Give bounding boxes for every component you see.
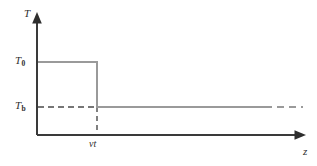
x-axis-label: z xyxy=(303,146,307,157)
temperature-step-figure: T z T0 Tb vt xyxy=(0,0,317,166)
y-tick-T0-subscript: 0 xyxy=(21,59,25,68)
y-tick-label-Tb: Tb xyxy=(15,100,25,111)
y-axis-arrowhead xyxy=(32,12,42,24)
y-tick-label-T0: T0 xyxy=(15,55,25,66)
temperature-step-curve xyxy=(38,62,265,107)
plot-canvas xyxy=(0,0,317,166)
x-axis-arrowhead xyxy=(295,130,307,140)
y-axis-label: T xyxy=(24,8,30,19)
x-tick-label-vt: vt xyxy=(89,139,96,149)
y-tick-Tb-subscript: b xyxy=(21,104,25,113)
